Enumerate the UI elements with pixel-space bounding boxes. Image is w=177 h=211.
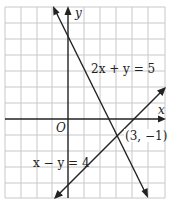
- origin-label: O: [56, 121, 66, 135]
- line-label-2x-plus-y: 2x + y = 5: [91, 62, 155, 76]
- line-label-x-minus-y: x − y = 4: [33, 156, 90, 170]
- arrow-icon: [142, 188, 149, 198]
- y-axis-label: y: [74, 6, 82, 20]
- x-axis-label: x: [158, 103, 165, 117]
- graph: y x O 2x + y = 5 x − y = 4 (3, −1): [0, 0, 177, 211]
- line-x-minus-y-eq-4: [54, 87, 166, 199]
- intersection-label: (3, −1): [125, 129, 167, 143]
